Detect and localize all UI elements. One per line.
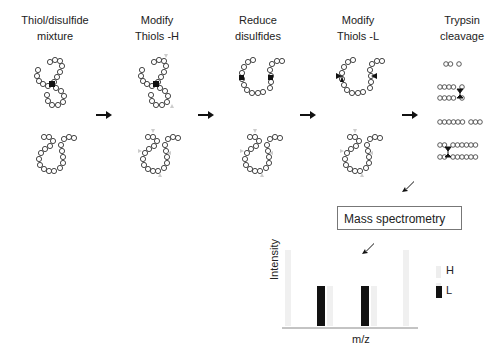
arrow-icon [96,111,418,254]
disulfide-link-marker [457,89,463,98]
protein-bottom-4 [340,129,383,177]
x-axis-label: m/z [352,333,370,345]
peptide-fragments [438,62,483,160]
legend-l-swatch [436,286,442,298]
protein-top-3 [239,57,285,95]
legend-h-label: H [446,264,454,276]
protein-top-1 [34,57,66,107]
protein-top-2 [138,54,174,108]
legend-l-label: L [446,284,452,296]
protein-bottom-1 [36,134,76,173]
mass-spectrometry-box: Mass spectrometry [337,206,462,230]
diagram-graphics [0,0,498,361]
legend-h-swatch [436,266,441,278]
protein-top-4 [336,57,385,95]
protein-bottom-2 [138,129,181,177]
mass-spectrum-chart [282,250,441,328]
y-axis-label: Intensity [268,239,280,280]
disulfide-link-marker-2 [445,147,451,157]
protein-bottom-3 [240,129,283,177]
